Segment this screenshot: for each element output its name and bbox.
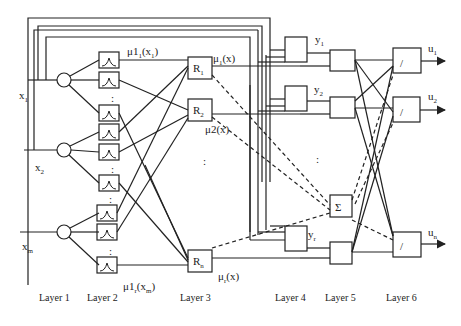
layer4-box-2 <box>285 86 307 111</box>
ellipsis-layer4: : <box>316 153 319 165</box>
layer-label-4: Layer 4 <box>275 292 306 303</box>
output-label-n: un <box>428 226 438 241</box>
rule-label-1: R1 <box>193 62 204 77</box>
divide-symbol-1: / <box>400 57 404 69</box>
layer4-box-1 <box>285 37 307 62</box>
rule-label-2: R2 <box>193 104 204 119</box>
ellipsis-layer2-b: : <box>111 163 114 175</box>
fnn-diagram: x1 x2 xm μ11(x1) μ1r(xm) R1 R2 Rn μ1(x) … <box>0 0 461 326</box>
divide-box-n <box>393 232 421 257</box>
layer-label-2: Layer 2 <box>87 292 118 303</box>
divide-symbol-n: / <box>400 240 404 252</box>
input-node-m <box>57 225 71 239</box>
output-label-1: u1 <box>428 42 438 57</box>
layer-label-1: Layer 1 <box>39 292 70 303</box>
rule-output-label-r: μr(x) <box>218 270 239 285</box>
membership-label-bottom: μ1r(xm) <box>123 280 155 295</box>
layer5-box-1 <box>330 50 355 71</box>
output-label-2: u2 <box>428 90 438 105</box>
layer-label-5: Layer 5 <box>325 292 356 303</box>
layer-label-3: Layer 3 <box>180 292 211 303</box>
layer5-box-r <box>330 242 352 264</box>
input-node-2 <box>57 143 71 157</box>
membership-boxes <box>97 52 119 273</box>
rule-output-label-2: μ2(x) <box>205 123 230 136</box>
y-label-2: y2 <box>314 83 324 98</box>
input-node-1 <box>57 73 71 87</box>
rule-label-n: Rn <box>193 255 204 270</box>
divide-symbol-2: / <box>400 106 404 118</box>
ellipsis-layer3: : <box>203 155 206 167</box>
y-label-1: y1 <box>315 33 325 48</box>
membership-label-top: μ11(x1) <box>127 45 159 60</box>
divide-box-1 <box>393 48 421 73</box>
divide-box-2 <box>393 97 420 122</box>
layer4-box-r <box>285 226 307 251</box>
sum-symbol: Σ <box>335 201 341 213</box>
layer5-box-2 <box>330 97 355 118</box>
input-label-2: x2 <box>35 161 45 176</box>
ellipsis-layer2-a: : <box>111 92 114 104</box>
ellipsis-layer2-c: : <box>109 193 112 205</box>
rule-output-label-1: μ1(x) <box>213 52 236 67</box>
input-label-1: x1 <box>19 89 29 104</box>
ellipsis-layer2-d: : <box>109 245 112 257</box>
layer-label-6: Layer 6 <box>386 292 417 303</box>
y-label-r: yr <box>308 228 317 243</box>
